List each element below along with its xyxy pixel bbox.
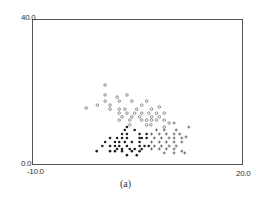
data-point [180,136,183,139]
data-point [145,100,148,103]
data-point [173,122,176,125]
data-point [165,147,168,150]
data-point [150,116,153,119]
data-point [147,112,150,115]
figure-caption: (a) [120,178,131,189]
data-point [104,100,107,103]
data-point [145,124,148,127]
data-point [104,141,107,144]
data-points [0,0,270,206]
data-point [145,133,148,136]
data-point [173,151,176,154]
data-point [163,128,166,131]
data-point [145,119,148,122]
data-point [118,108,121,111]
data-point [168,122,171,125]
data-point [131,100,134,103]
scatter-chart: 40.0 0.0 -10.0 20.0 (a) [0,0,270,206]
data-point [140,112,143,115]
data-point [118,100,121,103]
data-point [138,133,141,136]
data-point [153,136,156,139]
data-point [163,126,166,129]
data-point [118,119,121,122]
data-point [173,141,176,144]
data-point [121,150,124,153]
data-point [126,112,129,115]
data-point [118,145,121,148]
data-point [124,141,127,144]
data-point [109,104,112,107]
data-point [109,108,112,111]
data-point [118,141,121,144]
series-filled-dot [95,126,150,157]
data-point [85,107,88,110]
data-point [109,137,112,140]
data-point [140,137,143,140]
data-point [143,145,146,148]
data-point [183,151,186,154]
data-point [155,119,158,122]
data-point [138,150,141,153]
data-point [133,112,136,115]
data-point [140,119,143,122]
data-point [104,84,107,87]
data-point [168,145,171,148]
series-open-circle [85,84,171,129]
data-point [124,108,127,111]
data-point [178,132,181,135]
data-point [158,141,161,144]
data-point [126,94,129,97]
data-point [173,147,176,150]
data-point [116,148,119,151]
data-point [150,147,153,150]
data-point [158,106,161,109]
data-point [126,145,129,148]
data-point [114,141,117,144]
data-point [95,150,98,153]
data-point [126,137,129,140]
data-point [150,141,153,144]
data-point [114,150,117,153]
data-point [138,116,141,119]
data-point [104,94,107,97]
data-point [150,119,153,122]
data-point [126,126,129,129]
data-point [116,96,119,99]
data-point [118,112,121,115]
data-point [121,133,124,136]
data-point [147,145,150,148]
data-point [180,141,183,144]
data-point [168,136,171,139]
data-point [124,129,127,132]
data-point [165,132,168,135]
data-point [101,145,104,148]
data-point [121,137,124,140]
data-point [165,141,168,144]
data-point [126,133,129,136]
data-point [150,124,153,127]
data-point [175,145,178,148]
data-point [155,112,158,115]
data-point [155,128,158,131]
data-point [135,154,138,157]
data-point [180,150,183,153]
data-point [173,132,176,135]
data-point [138,145,141,148]
data-point [114,145,117,148]
data-point [140,148,143,151]
data-point [133,129,136,132]
data-point [153,145,156,148]
data-point [140,104,143,107]
series-plus [150,122,190,155]
data-point [175,128,178,131]
data-point [138,141,141,144]
data-point [158,147,161,150]
data-point [187,126,190,129]
data-point [128,148,131,151]
data-point [185,135,188,138]
data-point [160,136,163,139]
data-point [131,150,134,153]
data-point [135,108,138,111]
data-point [96,104,99,107]
